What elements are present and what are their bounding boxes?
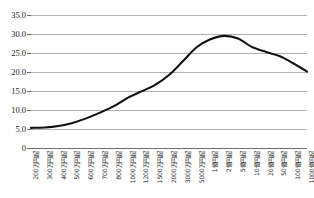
x-axis-tick-label: 100億円超: [293, 151, 302, 180]
x-axis-tick-label: 20億円超: [266, 151, 275, 176]
x-axis-tick-label: 1500万円超: [155, 151, 164, 183]
x-axis-tick-label: 2000万円超: [169, 151, 178, 183]
y-axis-tick-label: 20.0: [11, 67, 26, 77]
series-line: [31, 15, 307, 148]
y-axis-tick-label: 0: [22, 143, 26, 153]
y-axis-tick-label: 5.0: [15, 124, 26, 134]
y-axis-tick-mark: [27, 148, 31, 149]
y-axis-labels: 35.030.025.020.015.010.05.00: [0, 0, 31, 198]
x-axis-tick-label: 600万円超: [86, 151, 95, 180]
x-axis-tick-label: 300万円超: [45, 151, 54, 180]
x-axis-tick-label: 2億円超: [224, 151, 233, 172]
y-axis-tick-mark: [27, 15, 31, 16]
x-axis-tick-label: 10億円超: [252, 151, 261, 176]
plot-area: [31, 15, 307, 148]
y-axis-tick-label: 10.0: [11, 105, 26, 115]
x-axis-tick-label: 800万円超: [114, 151, 123, 180]
y-axis-tick-mark: [27, 110, 31, 111]
x-axis-tick-label: 50億円超: [279, 151, 288, 176]
x-axis-tick-label: 5億円超: [238, 151, 247, 172]
x-axis-tick-label: 500万円超: [72, 151, 81, 180]
y-axis-tick-mark: [27, 72, 31, 73]
y-axis-tick-label: 15.0: [11, 86, 26, 96]
x-axis-tick-label: 1億円超: [210, 151, 219, 172]
y-axis-tick-mark: [27, 34, 31, 35]
x-axis-tick-label: 1000万円超: [128, 151, 137, 183]
x-axis-tick-label: 200万円超: [31, 151, 40, 180]
y-axis-tick-label: 30.0: [11, 29, 26, 39]
x-axis-tick-label: 1200万円超: [141, 151, 150, 183]
x-axis-tick-label: 3000万円超: [183, 151, 192, 183]
line-chart: 35.030.025.020.015.010.05.00 200万円超300万円…: [0, 0, 314, 198]
y-axis-tick-mark: [27, 129, 31, 130]
x-axis-baseline: [31, 148, 307, 149]
y-axis-tick-mark: [27, 53, 31, 54]
y-axis-tick-mark: [27, 91, 31, 92]
x-axis-tick-label: 700万円超: [100, 151, 109, 180]
x-axis-labels: 200万円超300万円超400万円超500万円超600万円超700万円超800万…: [31, 150, 307, 198]
y-axis-tick-label: 25.0: [11, 48, 26, 58]
x-axis-tick-label: 5000万円超: [197, 151, 206, 183]
x-axis-tick-label: 400万円超: [59, 151, 68, 180]
x-axis-tick-label: 1000億円超: [307, 151, 314, 183]
y-axis-tick-label: 35.0: [11, 10, 26, 20]
